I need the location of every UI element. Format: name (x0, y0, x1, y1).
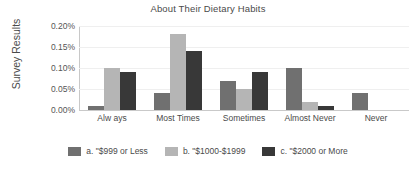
bar (252, 72, 268, 110)
x-axis-tick-label: Almost Never (284, 113, 335, 123)
chart-legend: a. "$999 or Lessb. "$1000-$1999c. "$2000… (0, 146, 416, 156)
legend-label: b. "$1000-$1999 (183, 146, 246, 156)
bar (120, 72, 136, 110)
bar (352, 93, 368, 110)
y-axis-tick-label: 0.05% (31, 84, 75, 94)
bar (186, 51, 202, 110)
y-axis-title: Survey Results (10, 9, 22, 99)
y-axis-tick-label: 0.20% (31, 21, 75, 31)
bar (170, 34, 186, 110)
bar-chart: About Their Dietary Habits Survey Result… (0, 0, 416, 171)
legend-swatch-icon (68, 147, 81, 156)
bar (286, 68, 302, 110)
x-axis-tick-label: Sometimes (223, 113, 266, 123)
gridline (79, 26, 409, 27)
legend-item[interactable]: b. "$1000-$1999 (165, 146, 246, 156)
chart-title: About Their Dietary Habits (0, 3, 416, 14)
plot-area (79, 26, 409, 110)
y-axis-tick-label: 0.15% (31, 42, 75, 52)
bar (302, 102, 318, 110)
gridline (79, 68, 409, 69)
x-axis-tick-label: Alw ays (97, 113, 126, 123)
bar (236, 89, 252, 110)
x-axis-tick-label: Never (365, 113, 388, 123)
y-axis-tick-label: 0.00% (31, 105, 75, 115)
legend-item[interactable]: a. "$999 or Less (68, 146, 148, 156)
legend-swatch-icon (262, 147, 275, 156)
gridline (79, 47, 409, 48)
bar (154, 93, 170, 110)
x-axis-tick-label: Most Times (156, 113, 199, 123)
legend-label: c. "$2000 or More (280, 146, 347, 156)
bar (104, 68, 120, 110)
bar (318, 106, 334, 110)
x-axis-line (79, 110, 409, 111)
bar (88, 106, 104, 110)
y-axis-tick-label: 0.10% (31, 63, 75, 73)
legend-item[interactable]: c. "$2000 or More (262, 146, 347, 156)
bar (220, 81, 236, 110)
legend-swatch-icon (165, 147, 178, 156)
legend-label: a. "$999 or Less (86, 146, 148, 156)
